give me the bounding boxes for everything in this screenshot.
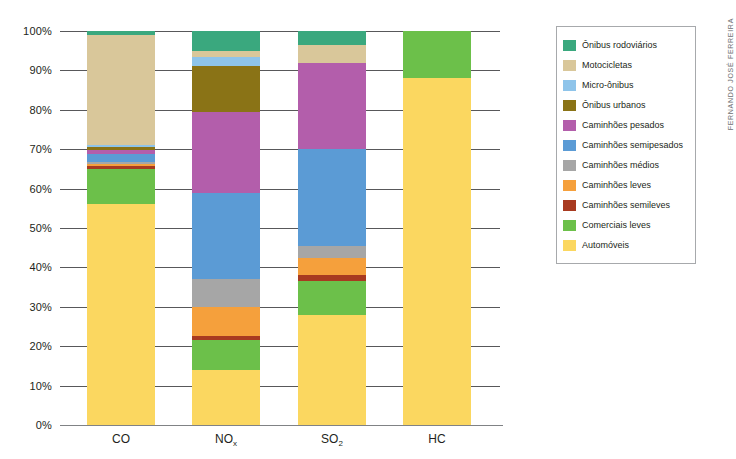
legend-item[interactable]: Ônibus rodoviários [563, 35, 687, 55]
bar-segment[interactable] [298, 63, 366, 150]
legend-swatch-icon [563, 180, 576, 191]
bar-segment[interactable] [192, 31, 260, 51]
bar-segment[interactable] [298, 149, 366, 246]
bar-segment[interactable] [298, 246, 366, 258]
legend-item[interactable]: Caminhões semileves [563, 195, 687, 215]
legend-item[interactable]: Caminhões leves [563, 175, 687, 195]
chart-area: 100%90%80%70%60%50%40%30%20%10%0% CONOxS… [0, 0, 520, 459]
x-axis-label-NOx: NOx [166, 432, 286, 448]
legend-label: Motocicletas [582, 61, 632, 70]
bar-HC[interactable] [403, 31, 471, 425]
legend-item[interactable]: Caminhões semipesados [563, 135, 687, 155]
bar-segment[interactable] [298, 31, 366, 45]
bar-segment[interactable] [192, 307, 260, 337]
plot-area [60, 31, 500, 425]
legend-swatch-icon [563, 200, 576, 211]
legend-label: Micro-ônibus [582, 81, 634, 90]
y-tick-label: 50% [29, 222, 52, 234]
x-axis-line [60, 425, 503, 426]
y-tick-label: 70% [29, 143, 52, 155]
bar-segment[interactable] [87, 154, 155, 162]
bar-segment[interactable] [192, 66, 260, 111]
legend-label: Caminhões semileves [582, 201, 670, 210]
legend-swatch-icon [563, 220, 576, 231]
bar-segment[interactable] [298, 315, 366, 425]
bar-segment[interactable] [298, 45, 366, 63]
legend-swatch-icon [563, 240, 576, 251]
chart-legend: Ônibus rodoviáriosMotocicletasMicro-ônib… [556, 26, 696, 264]
legend-swatch-icon [563, 160, 576, 171]
legend-swatch-icon [563, 140, 576, 151]
legend-swatch-icon [563, 120, 576, 131]
bar-segment[interactable] [298, 281, 366, 314]
y-tick-label: 60% [29, 183, 52, 195]
legend-item[interactable]: Micro-ônibus [563, 75, 687, 95]
bar-CO[interactable] [87, 31, 155, 425]
legend-label: Caminhões médios [582, 161, 659, 170]
bar-segment[interactable] [192, 370, 260, 425]
bar-segment[interactable] [87, 204, 155, 425]
legend-label: Caminhões semipesados [582, 141, 683, 150]
bar-SO2[interactable] [298, 31, 366, 425]
bar-segment[interactable] [192, 57, 260, 67]
legend-label: Caminhões pesados [582, 121, 664, 130]
bar-segment[interactable] [192, 112, 260, 193]
legend-item[interactable]: Motocicletas [563, 55, 687, 75]
x-axis-label-HC: HC [377, 432, 497, 446]
y-tick-label: 100% [23, 25, 52, 37]
y-tick-label: 80% [29, 104, 52, 116]
x-axis-label-SO2: SO2 [272, 432, 392, 448]
legend-item[interactable]: Caminhões médios [563, 155, 687, 175]
y-tick-label: 30% [29, 301, 52, 313]
legend-label: Caminhões leves [582, 181, 651, 190]
bar-NOx[interactable] [192, 31, 260, 425]
bar-segment[interactable] [403, 78, 471, 425]
legend-swatch-icon [563, 40, 576, 51]
y-axis-tick-labels: 100%90%80%70%60%50%40%30%20%10%0% [0, 31, 52, 425]
y-tick-label: 0% [36, 419, 52, 431]
bar-segment[interactable] [87, 169, 155, 204]
x-axis-label-CO: CO [61, 432, 181, 446]
y-tick-label: 20% [29, 340, 52, 352]
legend-item[interactable]: Ônibus urbanos [563, 95, 687, 115]
y-tick-label: 90% [29, 64, 52, 76]
legend-swatch-icon [563, 80, 576, 91]
legend-item[interactable]: Caminhões pesados [563, 115, 687, 135]
bar-segment[interactable] [192, 193, 260, 280]
legend-swatch-icon [563, 100, 576, 111]
legend-swatch-icon [563, 60, 576, 71]
bar-segment[interactable] [298, 258, 366, 276]
y-tick-label: 40% [29, 261, 52, 273]
legend-label: Automóveis [582, 241, 629, 250]
legend-label: Comerciais leves [582, 221, 651, 230]
bar-segment[interactable] [192, 279, 260, 307]
bar-segment[interactable] [192, 340, 260, 370]
y-tick-label: 10% [29, 380, 52, 392]
legend-item[interactable]: Automóveis [563, 235, 687, 255]
legend-label: Ônibus rodoviários [582, 41, 657, 50]
credit-line: FERNANDO JOSÉ FERREIRA [727, 18, 734, 130]
legend-item[interactable]: Comerciais leves [563, 215, 687, 235]
legend-label: Ônibus urbanos [582, 101, 646, 110]
bar-segment[interactable] [403, 31, 471, 78]
bar-segment[interactable] [87, 35, 155, 145]
